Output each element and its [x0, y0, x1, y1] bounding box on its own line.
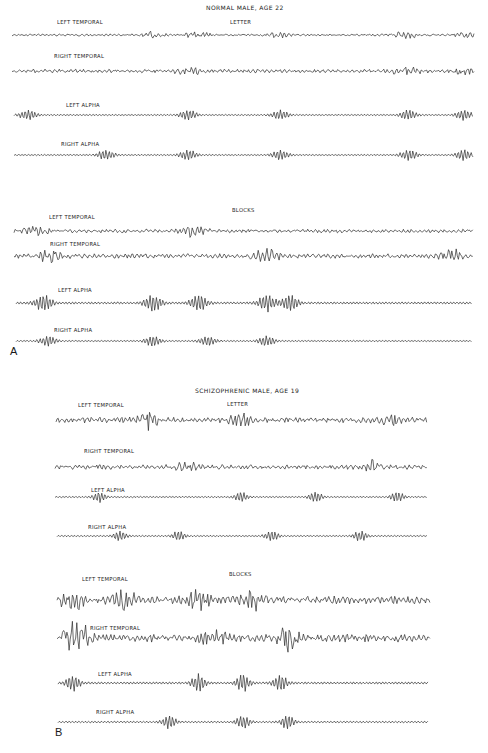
condition-letter-label: LETTER	[227, 401, 248, 407]
channel-label: LEFT ALPHA	[98, 671, 132, 677]
channel-label: LEFT ALPHA	[66, 102, 100, 108]
eeg-traces	[0, 0, 488, 753]
panel-b-title: SCHIZOPHRENIC MALE, AGE 19	[195, 387, 299, 394]
channel-label: RIGHT TEMPORAL	[50, 241, 100, 247]
channel-label: LEFT TEMPORAL	[57, 19, 103, 25]
channel-label: RIGHT ALPHA	[61, 141, 99, 147]
panel-a-title: NORMAL MALE, AGE 22	[206, 4, 284, 11]
channel-label: LEFT TEMPORAL	[49, 214, 95, 220]
channel-label: RIGHT TEMPORAL	[84, 448, 134, 454]
eeg-trace-a-letter-right-alpha	[14, 150, 473, 161]
eeg-trace-a-blocks-left-alpha	[16, 295, 471, 312]
channel-label: RIGHT ALPHA	[96, 709, 134, 715]
condition-blocks-label: BLOCKS	[232, 207, 255, 213]
eeg-trace-b-letter-left-temporal	[56, 412, 427, 430]
channel-label: LEFT TEMPORAL	[78, 402, 124, 408]
eeg-trace-a-blocks-left-temporal	[14, 226, 473, 237]
eeg-trace-b-letter-right-temporal	[55, 460, 427, 472]
condition-letter-label: LETTER	[230, 19, 251, 25]
channel-label: LEFT TEMPORAL	[82, 576, 128, 582]
eeg-trace-b-blocks-left-temporal	[57, 589, 430, 611]
channel-label: RIGHT TEMPORAL	[90, 625, 140, 631]
eeg-trace-a-letter-left-temporal	[12, 31, 474, 38]
channel-label: RIGHT ALPHA	[54, 327, 92, 333]
eeg-trace-b-letter-right-alpha	[57, 531, 427, 541]
channel-label: RIGHT TEMPORAL	[54, 53, 104, 59]
panel-a-marker: A	[10, 345, 17, 357]
channel-label: LEFT ALPHA	[91, 487, 125, 493]
panel-b-marker: B	[55, 726, 62, 738]
condition-blocks-label: BLOCKS	[229, 571, 252, 577]
eeg-trace-a-blocks-right-alpha	[16, 336, 471, 346]
eeg-trace-a-letter-left-alpha	[14, 110, 473, 121]
eeg-trace-a-blocks-right-temporal	[14, 248, 473, 262]
eeg-trace-b-blocks-right-alpha	[58, 716, 428, 729]
channel-label: RIGHT ALPHA	[88, 524, 126, 530]
eeg-trace-a-letter-right-temporal	[12, 67, 474, 75]
channel-label: LEFT ALPHA	[58, 287, 92, 293]
eeg-trace-b-letter-left-alpha	[55, 492, 427, 502]
